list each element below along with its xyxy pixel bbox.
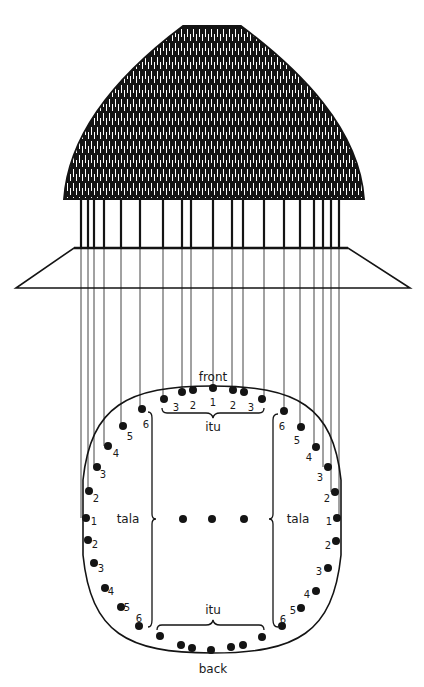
front-label: front — [199, 370, 228, 384]
thatched-roof — [64, 26, 364, 199]
post-number: 6 — [136, 613, 142, 624]
post-number: 2 — [325, 540, 331, 551]
post-number: 3 — [248, 402, 254, 413]
post-dot — [156, 632, 164, 640]
post-number: 3 — [316, 566, 322, 577]
post-dot — [189, 386, 197, 394]
back-label: back — [199, 662, 228, 676]
post-number: 3 — [317, 472, 323, 483]
post-number: 3 — [98, 563, 104, 574]
post-number: 3 — [173, 402, 179, 413]
post-number: 5 — [124, 602, 130, 613]
roof-thatch — [64, 26, 364, 199]
itu-bottom-brace — [157, 620, 264, 630]
tala-left-label: tala — [117, 512, 140, 526]
post-dot — [324, 463, 332, 471]
tala-right-brace — [269, 414, 278, 627]
post-number: 6 — [280, 614, 286, 625]
post-dot — [119, 422, 127, 430]
tala-left-brace — [148, 412, 156, 627]
post-dot — [240, 388, 248, 396]
post-dot — [104, 442, 112, 450]
post-number: 4 — [108, 586, 114, 597]
post-dot — [332, 537, 340, 545]
post-number: 2 — [230, 400, 236, 411]
post-dot — [312, 587, 320, 595]
post-number: 2 — [92, 539, 98, 550]
diagram-canvas: 321236543212345665432123456 front back i… — [0, 0, 424, 687]
post-number: 4 — [304, 589, 310, 600]
post-number: 1 — [210, 397, 216, 408]
post-number: 6 — [279, 421, 285, 432]
post-dot — [331, 488, 339, 496]
tala-right-label: tala — [287, 512, 310, 526]
post-dot — [229, 386, 237, 394]
post-number: 2 — [324, 493, 330, 504]
post-dot — [208, 515, 216, 523]
post-dot — [138, 405, 146, 413]
post-dot — [324, 564, 332, 572]
post-number: 5 — [294, 435, 300, 446]
post-dot — [209, 384, 217, 392]
post-dot — [333, 514, 341, 522]
post-number: 6 — [143, 419, 149, 430]
post-dot — [297, 604, 305, 612]
post-number: 1 — [91, 516, 97, 527]
post-dot — [240, 515, 248, 523]
post-dot — [258, 633, 266, 641]
hut-posts — [81, 199, 339, 248]
post-dot — [297, 423, 305, 431]
post-number: 5 — [290, 605, 296, 616]
post-dot — [207, 646, 215, 654]
post-dot — [178, 388, 186, 396]
post-dot — [227, 643, 235, 651]
post-number: 4 — [306, 452, 312, 463]
itu-bottom-label: itu — [205, 603, 221, 617]
post-dot — [177, 641, 185, 649]
post-dot — [90, 559, 98, 567]
post-dot — [188, 644, 196, 652]
itu-top-label: itu — [205, 420, 221, 434]
post-dot — [85, 487, 93, 495]
post-dot — [258, 395, 266, 403]
post-number: 5 — [127, 431, 133, 442]
post-number: 2 — [93, 493, 99, 504]
post-dot — [280, 407, 288, 415]
post-number: 2 — [190, 400, 196, 411]
post-number: 4 — [113, 448, 119, 459]
post-dot — [160, 395, 168, 403]
hut-diagram: 321236543212345665432123456 front back i… — [0, 0, 424, 687]
post-dot — [82, 514, 90, 522]
post-dot — [312, 443, 320, 451]
post-dot — [84, 536, 92, 544]
post-dot — [179, 515, 187, 523]
post-number: 3 — [100, 469, 106, 480]
post-dot — [239, 641, 247, 649]
post-number: 1 — [326, 516, 332, 527]
